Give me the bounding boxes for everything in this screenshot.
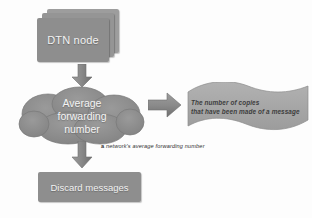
forwarding-number-caption: a network's average forwarding number: [101, 143, 205, 149]
cloud-label-line-3: number: [64, 123, 100, 136]
arrow-right-cloud-to-banner-icon: [148, 92, 182, 118]
diagram-canvas: DTN node Aver: [0, 0, 312, 218]
wave-banner-text: The number of copies that have been made…: [191, 92, 307, 122]
cloud-label-line-1: Average: [63, 97, 102, 110]
wave-banner-line-2: that have been made of a message: [191, 107, 307, 117]
caption-lead: a: [101, 143, 104, 149]
cloud-label: Average forwarding number: [18, 88, 146, 144]
caption-text: network's average forwarding number: [106, 143, 205, 149]
cloud-label-line-2: forwarding: [57, 110, 106, 123]
wave-banner-line-1: The number of copies: [191, 98, 307, 108]
dtn-node-label-wrap: DTN node: [37, 9, 123, 65]
arrow-down-cloud-to-discard-icon: [71, 141, 93, 169]
dtn-node-label: DTN node: [37, 18, 109, 62]
discard-messages-label: Discard messages: [38, 172, 141, 202]
